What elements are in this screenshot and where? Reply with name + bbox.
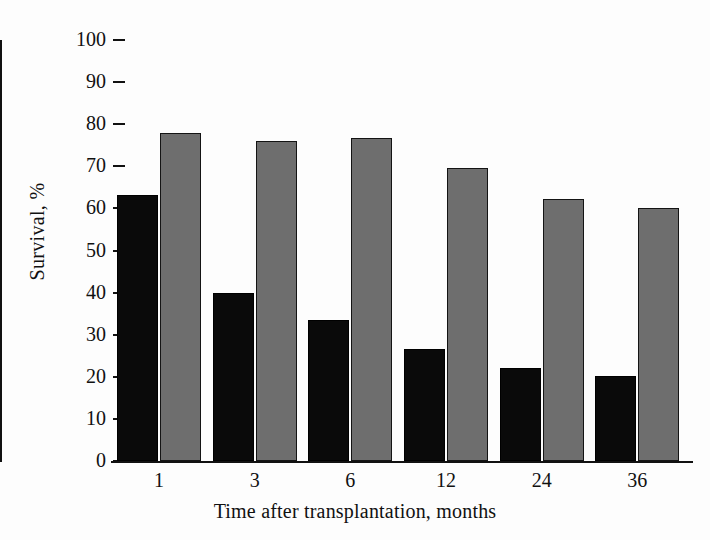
- x-axis-tick-label: 1: [119, 470, 199, 490]
- y-axis-tick-label: 40: [36, 282, 106, 302]
- y-axis-line: [0, 40, 2, 462]
- y-axis-tick: [113, 39, 125, 41]
- bar-gray-series-1: [160, 133, 201, 461]
- bar-black-series-36: [595, 376, 636, 461]
- y-axis-tick-label: 30: [36, 324, 106, 344]
- x-axis-tick-label: 24: [502, 470, 582, 490]
- y-axis-tick-label: 0: [36, 450, 106, 470]
- x-axis-tick-label: 12: [406, 470, 486, 490]
- x-axis-title: Time after transplantation, months: [0, 500, 710, 523]
- bar-black-series-6: [308, 320, 349, 461]
- y-axis-tick-label: 20: [36, 366, 106, 386]
- bar-gray-series-12: [447, 168, 488, 461]
- y-axis-tick-label: 10: [36, 408, 106, 428]
- y-axis-tick: [113, 165, 125, 167]
- bar-black-series-24: [500, 368, 541, 461]
- bar-black-series-3: [213, 293, 254, 461]
- y-axis-tick-label: 90: [36, 71, 106, 91]
- bar-gray-series-6: [351, 138, 392, 461]
- bar-chart-figure: Survival, % 1009080706050403020100 13612…: [0, 0, 710, 540]
- bar-gray-series-3: [256, 141, 297, 461]
- y-axis-tick-label: 100: [36, 29, 106, 49]
- bar-black-series-1: [117, 195, 158, 461]
- bar-black-series-12: [404, 349, 445, 461]
- x-axis-tick-label: 36: [597, 470, 677, 490]
- y-axis-tick-label: 50: [36, 240, 106, 260]
- x-axis-line: [111, 461, 693, 463]
- x-axis-tick-label: 6: [310, 470, 390, 490]
- x-axis-tick-label: 3: [215, 470, 295, 490]
- y-axis-tick: [113, 123, 125, 125]
- y-axis-tick-label: 70: [36, 155, 106, 175]
- y-axis-tick-label: 60: [36, 197, 106, 217]
- bar-gray-series-36: [638, 208, 679, 461]
- bar-gray-series-24: [543, 199, 584, 461]
- y-axis-tick-label: 80: [36, 113, 106, 133]
- y-axis-tick: [113, 81, 125, 83]
